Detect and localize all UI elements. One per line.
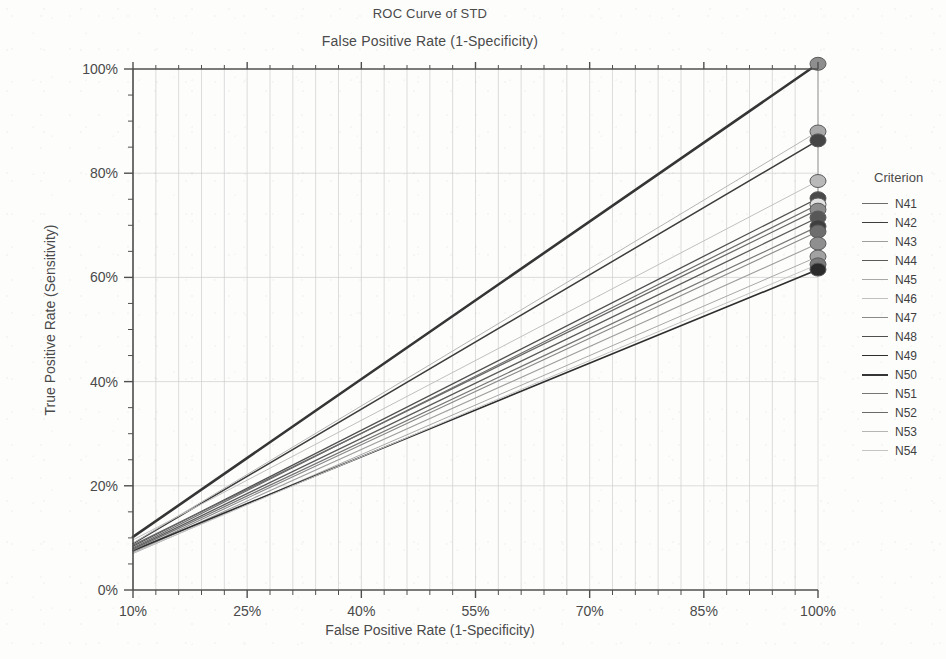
legend-item-label: N46 <box>895 292 917 306</box>
legend-swatch-icon <box>862 203 888 204</box>
legend: Criterion N41N42N43N44N45N46N47N48N49N50… <box>862 170 946 460</box>
y-tick-label: 40% <box>90 374 118 390</box>
legend-item-n49[interactable]: N49 <box>862 346 946 365</box>
legend-swatch-icon <box>862 298 888 299</box>
plot-area: 10%25%40%55%70%85%100%0%20%40%60%80%100% <box>0 0 946 659</box>
legend-item-n54[interactable]: N54 <box>862 441 946 460</box>
legend-swatch-icon <box>862 355 888 356</box>
legend-item-n52[interactable]: N52 <box>862 403 946 422</box>
legend-item-label: N45 <box>895 273 917 287</box>
legend-item-n43[interactable]: N43 <box>862 232 946 251</box>
legend-swatch-icon <box>862 279 888 280</box>
legend-item-n47[interactable]: N47 <box>862 308 946 327</box>
x-axis-title: False Positive Rate (1-Specificity) <box>0 622 860 638</box>
legend-items: N41N42N43N44N45N46N47N48N49N50N51N52N53N… <box>862 194 946 460</box>
legend-item-n42[interactable]: N42 <box>862 213 946 232</box>
legend-swatch-icon <box>862 336 888 337</box>
legend-item-label: N42 <box>895 216 917 230</box>
legend-item-n51[interactable]: N51 <box>862 384 946 403</box>
legend-item-label: N54 <box>895 444 917 458</box>
endpoint-marker-n46[interactable] <box>810 175 826 188</box>
y-tick-label: 20% <box>90 478 118 494</box>
x-tick-label: 70% <box>576 603 604 619</box>
legend-swatch-icon <box>862 431 888 432</box>
legend-item-label: N41 <box>895 197 917 211</box>
y-tick-label: 100% <box>82 61 118 77</box>
legend-item-n50[interactable]: N50 <box>862 365 946 384</box>
y-tick-label: 0% <box>98 582 118 598</box>
x-tick-label: 10% <box>119 603 147 619</box>
legend-item-label: N49 <box>895 349 917 363</box>
endpoint-marker-n47[interactable] <box>810 225 826 238</box>
legend-item-label: N48 <box>895 330 917 344</box>
y-tick-label: 60% <box>90 269 118 285</box>
legend-item-label: N50 <box>895 368 917 382</box>
x-tick-label: 85% <box>690 603 718 619</box>
legend-item-label: N43 <box>895 235 917 249</box>
x-tick-label: 25% <box>233 603 261 619</box>
legend-item-label: N44 <box>895 254 917 268</box>
roc-plot-svg: 10%25%40%55%70%85%100%0%20%40%60%80%100% <box>0 0 946 659</box>
endpoint-marker-n49[interactable] <box>810 263 826 276</box>
endpoint-marker-n42[interactable] <box>810 134 826 147</box>
endpoint-marker-n43[interactable] <box>810 237 826 250</box>
legend-item-label: N47 <box>895 311 917 325</box>
legend-swatch-icon <box>862 412 888 413</box>
legend-item-label: N53 <box>895 425 917 439</box>
legend-title: Criterion <box>874 170 946 185</box>
legend-swatch-icon <box>862 393 888 394</box>
y-tick-label: 80% <box>90 165 118 181</box>
y-axis-title: True Positive Rate (Sensitivity) <box>42 140 58 500</box>
legend-swatch-icon <box>862 260 888 261</box>
x-tick-label: 40% <box>347 603 375 619</box>
legend-swatch-icon <box>862 374 888 376</box>
legend-item-n44[interactable]: N44 <box>862 251 946 270</box>
legend-item-label: N52 <box>895 406 917 420</box>
legend-item-n48[interactable]: N48 <box>862 327 946 346</box>
legend-swatch-icon <box>862 222 888 223</box>
legend-swatch-icon <box>862 241 888 242</box>
x-tick-label: 100% <box>800 603 836 619</box>
legend-item-n46[interactable]: N46 <box>862 289 946 308</box>
legend-item-n41[interactable]: N41 <box>862 194 946 213</box>
roc-chart-page: ROC Curve of STD False Positive Rate (1-… <box>0 0 946 659</box>
legend-item-label: N51 <box>895 387 917 401</box>
x-tick-label: 55% <box>461 603 489 619</box>
legend-item-n45[interactable]: N45 <box>862 270 946 289</box>
legend-swatch-icon <box>862 450 888 451</box>
legend-swatch-icon <box>862 317 888 318</box>
legend-item-n53[interactable]: N53 <box>862 422 946 441</box>
